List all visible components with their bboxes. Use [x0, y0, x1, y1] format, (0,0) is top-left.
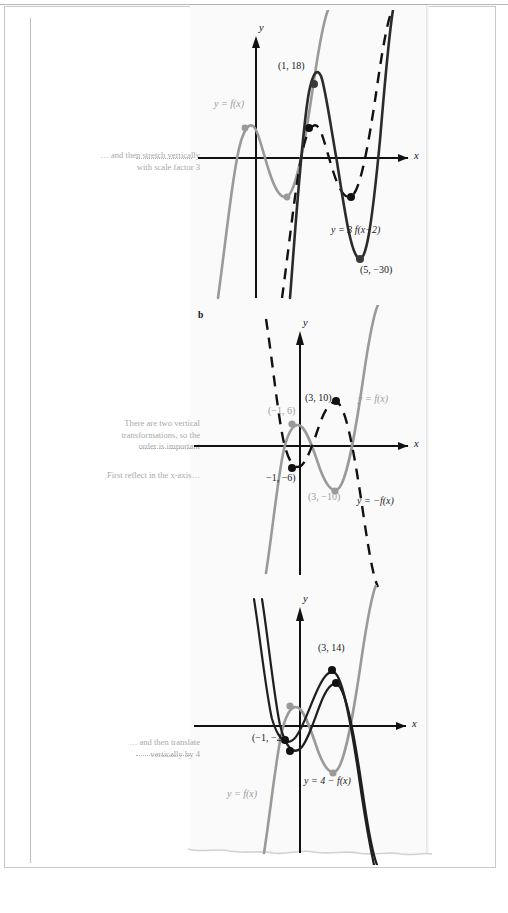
curve-f-original [264, 585, 376, 853]
axis-y-label: y [303, 593, 308, 604]
margin-note-reflect-line1: First reflect in the x-axis… [40, 470, 200, 482]
margin-note-stretch-line2: with scale factor 3 [40, 162, 200, 174]
label-point-3-10: (3, 10) [305, 392, 332, 403]
margin-note-order-line1: There are two vertical [40, 418, 200, 430]
axis-y-label: y [259, 22, 264, 33]
label-point-m1-m2: (−1, −2) [252, 732, 285, 743]
label-curve-4-minus-f: y = 4 − f(x) [304, 775, 351, 786]
axis-x-label: x [412, 718, 417, 729]
leader-order [140, 448, 192, 450]
label-point-m1-m6: −1, −6) [266, 472, 296, 483]
panel-stretch: x y (1, 18) y = f(x) y = 3 f(x−2) (5, −3… [190, 10, 426, 300]
axes [194, 331, 408, 575]
axis-x-label: x [414, 438, 419, 449]
label-curve-f: y = f(x) [227, 788, 257, 799]
label-point-3-14: (3, 14) [318, 642, 345, 653]
margin-note-stretch: … and then stretch vertically with scale… [40, 150, 200, 173]
label-curve-neg-f: y = −f(x) [357, 495, 394, 506]
margin-note-order-line3: order is important [40, 441, 200, 453]
label-point-1-18: (1, 18) [278, 60, 305, 71]
curve-f-original [218, 10, 328, 298]
margin-rule [30, 18, 31, 863]
panel-stretch-plot [190, 10, 426, 300]
panel-reflect-plot [190, 305, 426, 590]
margin-note-reflect: First reflect in the x-axis… [40, 470, 200, 482]
label-curve-f: y = f(x) [358, 393, 388, 404]
curve-3f-shifted [290, 10, 393, 298]
margin-note-order-line2: transformations, so the [40, 430, 200, 442]
panel-translate: x y (3, 14) (−1, −2) y = f(x) y = 4 − f(… [190, 585, 426, 865]
leader-translate [136, 755, 192, 757]
label-point-5-m30: (5, −30) [360, 264, 392, 275]
margin-note-translate-line1: … and then translate [40, 737, 200, 749]
label-curve-f: y = f(x) [214, 98, 244, 109]
curve-f-shifted-dashed [282, 10, 392, 298]
label-point-m1-6: (−1, 6) [268, 405, 295, 416]
panel-translate-plot [190, 585, 426, 865]
axis-x-label: x [414, 150, 419, 161]
plate-right-edge [426, 5, 429, 860]
label-point-3-m10: (3, −10) [308, 491, 340, 502]
axis-y-label: y [303, 317, 308, 328]
leader-stretch [136, 158, 192, 160]
panel-reflect: x y (−1, 6) (3, 10) y = f(x) −1, −6) (3,… [190, 305, 426, 590]
label-curve-3f: y = 3 f(x−2) [331, 224, 380, 235]
